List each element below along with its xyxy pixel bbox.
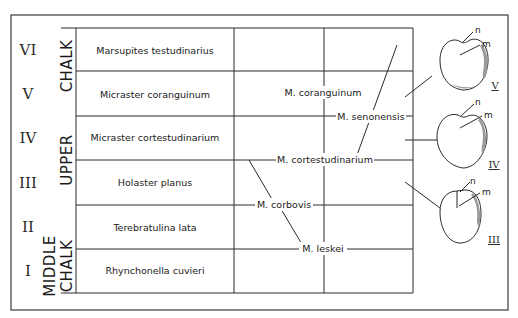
label-m: m [482, 39, 491, 49]
label-m: m [482, 187, 491, 197]
species-coranguinum: M. coranguinum [284, 87, 361, 98]
stage-numeral: VI [19, 41, 37, 59]
stage-numeral: III [19, 174, 37, 192]
zone-name: Rhynchonella cuvieri [105, 265, 204, 276]
zone-name: Terebratulina lata [112, 222, 196, 233]
micraster-evolution-diagram: VI V IV III II I CHALK UPPER MIDDLE CHAL… [0, 0, 518, 318]
zone-name: Marsupites testudinarius [96, 45, 213, 56]
middle-chalk-label-chalk: CHALK [58, 239, 76, 292]
formation-labels: CHALK UPPER MIDDLE CHALK [41, 39, 76, 297]
species-cortestudinarium: M. cortestudinarium [277, 154, 373, 165]
species-senonensis: M. senonensis [337, 111, 404, 122]
species-leskei: M. leskei [302, 243, 343, 254]
middle-chalk-label-middle: MIDDLE [41, 235, 59, 296]
fossil-stage-label: III [488, 234, 500, 245]
label-n: n [475, 97, 481, 107]
zone-name: Micraster coranguinum [100, 89, 210, 100]
outer-frame [11, 15, 508, 310]
zone-name: Holaster planus [118, 177, 192, 188]
fossil-stage-label: V [490, 80, 499, 91]
stage-numeral: II [22, 218, 34, 236]
label-n: n [470, 176, 476, 186]
echinoid-outline-icon [437, 114, 487, 168]
label-m: m [484, 110, 493, 120]
stage-numeral: I [25, 262, 31, 280]
fossil-v: n m V [440, 25, 499, 91]
fossil-iv: n m IV [437, 97, 500, 170]
label-n: n [475, 25, 481, 35]
stage-numeral: V [22, 85, 35, 103]
species-labels: M. coranguinum M. senonensis M. cortestu… [255, 86, 406, 255]
stage-numeral: IV [20, 129, 38, 147]
lineage-lines [249, 45, 440, 246]
zone-name: Micraster cortestudinarium [91, 132, 220, 143]
fossil-iii: n m III [440, 176, 500, 245]
stage-numerals: VI V IV III II I [19, 41, 38, 280]
upper-chalk-label-chalk: CHALK [58, 39, 76, 92]
fossil-stage-label: IV [488, 159, 500, 170]
species-corbovis: M. corbovis [257, 199, 311, 210]
upper-chalk-label-upper: UPPER [58, 134, 76, 185]
